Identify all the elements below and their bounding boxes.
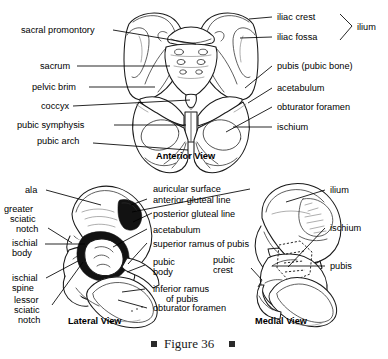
lateral-hip-bone-illustration — [63, 186, 159, 328]
label-acetabulum: acetabulum — [277, 83, 325, 93]
square-bullet-left-icon — [151, 341, 157, 347]
label-ischial-body: ischial body — [12, 238, 38, 258]
label-ilium-medial: ilium — [330, 185, 349, 195]
label-iliac-fossa: iliac fossa — [277, 32, 318, 42]
lateral-left-labels: ala greater sciatic notch ischial body i… — [4, 185, 40, 325]
svg-text:crest: crest — [213, 265, 233, 275]
svg-text:pubic: pubic — [153, 257, 175, 267]
caption-anterior-view: Anterior View — [156, 151, 216, 161]
label-pubic-body: pubic body — [153, 257, 175, 277]
label-ischial-spine: ischial spine — [12, 273, 38, 293]
svg-text:body: body — [153, 267, 173, 277]
label-sacral-promontory: sacral promontory — [21, 25, 95, 35]
svg-text:ischial: ischial — [12, 238, 38, 248]
figure-canvas: sacral promontory sacrum pelvic brim coc… — [0, 0, 388, 359]
svg-text:lessor: lessor — [14, 295, 39, 305]
label-pubis-medial: pubis — [330, 261, 352, 271]
lateral-center-labels: auricular surface anterior gluteal line … — [153, 184, 249, 313]
label-pubic-crest: pubic crest — [213, 255, 235, 275]
svg-text:notch: notch — [18, 315, 40, 325]
label-sacrum: sacrum — [40, 61, 70, 71]
label-pubic-symphysis: pubic symphysis — [17, 120, 85, 130]
label-inferior-ramus-pubis: inferior ramus of pubis — [153, 284, 210, 304]
label-ischium-medial: ischium — [330, 223, 361, 233]
medial-hip-bone-illustration — [255, 183, 341, 326]
figure-caption-group: Figure 36 — [151, 336, 235, 351]
svg-text:ischial: ischial — [12, 273, 38, 283]
ilium-bracket — [340, 14, 352, 40]
svg-text:greater: greater — [4, 204, 33, 214]
label-obturator-foramen: obturator foramen — [277, 102, 350, 112]
anterior-view-group: sacral promontory sacrum pelvic brim coc… — [17, 12, 376, 173]
label-obturator-foramen-lateral: obturator foramen — [153, 303, 226, 313]
label-anterior-gluteal-line: anterior gluteal line — [153, 195, 231, 205]
figure-number: Figure 36 — [164, 336, 215, 351]
medial-view-group: ilium ischium pubis pubic crest Medial V… — [213, 183, 361, 326]
svg-text:inferior ramus: inferior ramus — [153, 284, 210, 294]
svg-text:notch: notch — [16, 224, 38, 234]
label-pubis: pubis (pubic bone) — [277, 61, 353, 71]
svg-text:sciatic: sciatic — [10, 214, 36, 224]
label-ala: ala — [25, 185, 38, 195]
label-acetabulum-lateral: acetabulum — [153, 225, 201, 235]
label-iliac-crest: iliac crest — [277, 12, 316, 22]
label-ischium: ischium — [277, 122, 308, 132]
svg-text:pubic: pubic — [213, 255, 235, 265]
svg-text:spine: spine — [12, 283, 34, 293]
anterior-pelvis-illustration — [124, 13, 258, 173]
caption-medial-view: Medial View — [255, 316, 308, 326]
anterior-left-labels: sacral promontory sacrum pelvic brim coc… — [17, 25, 95, 146]
label-auricular-surface: auricular surface — [153, 184, 221, 194]
svg-text:body: body — [12, 248, 32, 258]
anatomy-figure: sacral promontory sacrum pelvic brim coc… — [0, 0, 388, 359]
leader-iliac-crest — [249, 17, 272, 19]
label-pubic-arch: pubic arch — [37, 136, 79, 146]
label-pelvic-brim: pelvic brim — [32, 82, 76, 92]
anterior-right-labels: iliac crest iliac fossa ilium pubis (pub… — [277, 12, 376, 132]
svg-text:sciatic: sciatic — [14, 305, 40, 315]
label-greater-sciatic-notch: greater sciatic notch — [4, 204, 38, 234]
caption-lateral-view: Lateral View — [68, 316, 122, 326]
label-lessor-sciatic-notch: lessor sciatic notch — [14, 295, 40, 325]
label-coccyx: coccyx — [41, 101, 69, 111]
leader-greater-sciatic-notch — [48, 228, 72, 243]
label-superior-ramus-pubis: superior ramus of pubis — [153, 239, 249, 249]
label-posterior-gluteal-line: posterior gluteal line — [153, 209, 235, 219]
square-bullet-right-icon — [229, 341, 235, 347]
label-ilium: ilium — [357, 22, 376, 32]
